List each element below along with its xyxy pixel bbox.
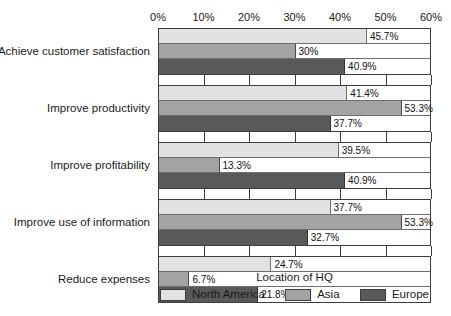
gridline-tick <box>158 75 159 85</box>
bar-row: 53.3% <box>159 101 430 116</box>
bar-value-label: 37.7% <box>331 200 362 215</box>
bar-group: 37.7%53.3%32.7% <box>158 199 431 246</box>
legend-item[interactable]: Europe <box>360 288 429 301</box>
legend-label: North America <box>192 288 265 301</box>
bar-segment <box>159 116 331 131</box>
bar-value-label: 32.7% <box>308 230 339 245</box>
gridline-tick <box>295 132 296 142</box>
bar-row: 53.3% <box>159 215 430 230</box>
bar-row: 40.9% <box>159 59 430 74</box>
bar-segment <box>159 200 331 214</box>
legend-title: Location of HQ <box>158 270 431 284</box>
gridline-tick <box>204 75 205 85</box>
gridline-tick <box>340 246 341 256</box>
category-label: Reduce expenses <box>58 273 150 286</box>
legend-swatch <box>160 289 186 301</box>
bar-segment <box>159 101 402 115</box>
gridline-tick <box>158 189 159 199</box>
bar-value-label: 40.9% <box>345 59 376 74</box>
bar-segment <box>159 158 220 172</box>
gridline-tick-row <box>158 132 431 142</box>
bar-group: 39.5%13.3%40.9% <box>158 142 431 189</box>
bar-value-label: 41.4% <box>347 86 378 101</box>
category-label: Improve productivity <box>47 102 150 115</box>
bar-row: 13.3% <box>159 158 430 173</box>
category-label: Achieve customer satisfaction <box>0 45 150 58</box>
gridline-tick <box>249 246 250 256</box>
gridline-tick <box>204 189 205 199</box>
bar-segment <box>159 59 345 74</box>
gridline-tick <box>386 132 387 142</box>
gridline-tick <box>295 75 296 85</box>
x-tick-label: 40% <box>329 10 351 24</box>
bar-value-label: 37.7% <box>331 116 362 131</box>
bar-row: 37.7% <box>159 116 430 131</box>
gridline-tick <box>295 189 296 199</box>
legend-item[interactable]: North America <box>160 288 265 301</box>
gridline-tick <box>249 75 250 85</box>
gridline-tick <box>386 189 387 199</box>
category-label: Improve profitability <box>50 159 150 172</box>
x-tick-label: 0% <box>150 10 166 24</box>
bar-row: 45.7% <box>159 29 430 44</box>
bar-row: 39.5% <box>159 143 430 158</box>
legend-swatch <box>360 289 386 301</box>
bar-group: 41.4%53.3%37.7% <box>158 85 431 132</box>
bar-segment <box>159 29 367 43</box>
bar-row: 37.7% <box>159 200 430 215</box>
x-axis-tick-labels: 0%10%20%30%40%50%60% <box>0 10 451 26</box>
bar-segment <box>159 230 308 245</box>
bar-value-label: 30% <box>296 44 319 59</box>
horizontal-bar-chart: 0%10%20%30%40%50%60% Achieve customer sa… <box>0 0 451 316</box>
bar-row: 40.9% <box>159 173 430 188</box>
gridline-tick <box>386 75 387 85</box>
bar-value-label: 13.3% <box>220 158 251 173</box>
gridline-tick <box>158 132 159 142</box>
bar-segment <box>159 257 271 271</box>
gridline-tick <box>204 246 205 256</box>
legend-swatch <box>285 289 311 301</box>
gridline-tick <box>340 132 341 142</box>
gridline-tick <box>431 189 432 199</box>
bar-segment <box>159 143 339 157</box>
x-tick-label: 60% <box>420 10 442 24</box>
bar-segment <box>159 173 345 188</box>
legend-label: Asia <box>317 288 339 301</box>
x-tick-label: 10% <box>192 10 214 24</box>
bar-segment <box>159 215 402 229</box>
bar-row: 30% <box>159 44 430 59</box>
gridline-tick <box>431 75 432 85</box>
x-tick-label: 30% <box>283 10 305 24</box>
bar-value-label: 40.9% <box>345 173 376 188</box>
gridline-tick <box>158 246 159 256</box>
bar-row: 41.4% <box>159 86 430 101</box>
gridline-tick <box>340 75 341 85</box>
gridline-tick <box>431 132 432 142</box>
gridline-tick-row <box>158 246 431 256</box>
legend-label: Europe <box>392 288 429 301</box>
gridline-tick <box>386 246 387 256</box>
legend-item[interactable]: Asia <box>285 288 339 301</box>
plot-area: 45.7%30%40.9%41.4%53.3%37.7%39.5%13.3%40… <box>158 28 431 262</box>
gridline-tick <box>295 246 296 256</box>
legend-item-list: North AmericaAsiaEurope <box>158 288 431 301</box>
bar-value-label: 39.5% <box>339 143 370 158</box>
x-tick-label: 50% <box>374 10 396 24</box>
bar-row: 32.7% <box>159 230 430 245</box>
bar-value-label: 53.3% <box>402 215 433 230</box>
x-tick-label: 20% <box>238 10 260 24</box>
chart-legend: Location of HQ North AmericaAsiaEurope <box>158 270 431 301</box>
gridline-tick-row <box>158 189 431 199</box>
gridline-tick-row <box>158 75 431 85</box>
bar-segment <box>159 86 347 100</box>
gridline-tick <box>204 132 205 142</box>
category-label: Improve use of information <box>14 216 150 229</box>
gridline-tick <box>249 189 250 199</box>
bar-segment <box>159 44 296 58</box>
gridline-tick <box>340 189 341 199</box>
bar-value-label: 45.7% <box>367 29 398 44</box>
bar-group: 45.7%30%40.9% <box>158 28 431 75</box>
gridline-tick <box>431 246 432 256</box>
bar-value-label: 53.3% <box>402 101 433 116</box>
gridline-tick <box>249 132 250 142</box>
